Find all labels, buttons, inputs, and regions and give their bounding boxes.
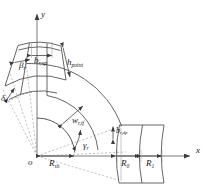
upper-segment — [5, 42, 66, 99]
gamma-base: γ — [83, 140, 87, 150]
h-point-sub: point — [72, 62, 83, 68]
b-sup-label: br,up — [34, 56, 47, 65]
upper-cap-outer — [18, 42, 61, 46]
delta-sub: r — [5, 98, 7, 104]
h-point-label: hpoint — [67, 58, 83, 67]
w-tf-sub: r,tf — [78, 120, 84, 126]
R-0-label: R0 — [121, 159, 129, 168]
R-1-base: R — [146, 158, 152, 168]
R-sh-label: Rsh — [49, 159, 59, 168]
ray-lower-upper — [37, 126, 122, 156]
R-0-base: R — [121, 158, 127, 168]
h-point-base: h — [67, 57, 72, 67]
b-sup-sub: r,up — [39, 60, 48, 66]
R-sh-base: R — [49, 158, 55, 168]
b-sup-base: b — [34, 55, 39, 65]
beta-sub: r — [23, 65, 25, 71]
beta-label: βr — [19, 61, 26, 70]
figure-canvas: y x o βr br,up hpoint δr wr,tf γr br,dp … — [0, 0, 208, 189]
R-1-label: R1 — [146, 159, 154, 168]
delta-label: δr — [1, 94, 7, 103]
w-tf-label: wr,tf — [72, 116, 84, 125]
right-seg-right-curve — [161, 125, 164, 183]
R-0-sub: 0 — [127, 163, 130, 169]
dim-gamma — [76, 130, 81, 146]
upper-left-flank — [5, 46, 18, 87]
upper-bottom-arc-2 — [9, 91, 57, 100]
gamma-label: γr — [83, 141, 89, 150]
R-1-sub: 1 — [152, 163, 155, 169]
dim-delta — [8, 88, 15, 98]
b-rdp-label: br,dp — [116, 127, 128, 135]
inner-arc — [37, 118, 75, 153]
b-rdp-sub: r,dp — [120, 130, 128, 135]
axis-group — [37, 14, 190, 156]
origin-label: o — [28, 158, 33, 167]
x-axis-label: x — [196, 146, 200, 155]
upper-cap-inner — [19, 47, 61, 51]
ray-lower-centre — [37, 152, 126, 156]
upper-bottom-arc — [5, 76, 66, 86]
R-sh-sub: sh — [55, 163, 60, 169]
ray-upper-centre — [9, 71, 37, 156]
bend-body — [27, 63, 122, 152]
y-axis-label: y — [41, 10, 45, 19]
gamma-sub: r — [87, 145, 89, 151]
